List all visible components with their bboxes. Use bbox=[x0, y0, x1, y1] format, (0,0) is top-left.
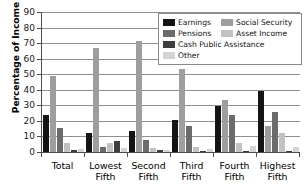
legend-swatch-social-security bbox=[221, 19, 233, 26]
y-tick-mark bbox=[37, 43, 41, 44]
y-tick-label: 40 bbox=[3, 85, 35, 95]
y-tick-label: 80 bbox=[3, 23, 35, 33]
bar bbox=[272, 112, 278, 152]
x-tick-mark bbox=[127, 152, 128, 157]
x-tick-mark bbox=[170, 152, 171, 157]
y-tick-label: 20 bbox=[3, 116, 35, 126]
legend-label: Pensions bbox=[178, 30, 211, 38]
bar bbox=[172, 120, 178, 152]
y-tick-label: 0 bbox=[3, 147, 35, 157]
bar-group bbox=[42, 12, 85, 152]
x-tick-mark bbox=[256, 152, 257, 157]
y-tick-label: 30 bbox=[3, 100, 35, 110]
bar bbox=[129, 131, 135, 152]
legend-swatch-cash-public-assistance bbox=[163, 41, 175, 48]
bar bbox=[236, 143, 242, 152]
bar-chart: Percentage of Income 0102030405060708090… bbox=[0, 0, 307, 196]
legend: EarningsSocial SecurityPensionsAsset Inc… bbox=[158, 13, 302, 65]
y-tick-mark bbox=[37, 12, 41, 13]
x-tick-mark bbox=[213, 152, 214, 157]
bar bbox=[136, 41, 142, 152]
y-tick-mark bbox=[37, 59, 41, 60]
x-tick-mark bbox=[41, 152, 42, 157]
legend-swatch-earnings bbox=[163, 19, 175, 26]
bar bbox=[143, 140, 149, 152]
y-tick-label: 10 bbox=[3, 131, 35, 141]
bar bbox=[114, 141, 120, 152]
x-axis-ticks: TotalLowestFifthSecondFifthThirdFifthFou… bbox=[41, 152, 299, 192]
y-tick-mark bbox=[37, 90, 41, 91]
legend-item: Earnings bbox=[163, 17, 217, 28]
bar bbox=[64, 143, 70, 152]
y-tick-label: 70 bbox=[3, 38, 35, 48]
bar bbox=[279, 133, 285, 152]
x-tick-mark bbox=[84, 152, 85, 157]
legend-item: Other bbox=[163, 50, 298, 61]
y-tick-mark bbox=[37, 121, 41, 122]
bar-group-bars bbox=[85, 12, 128, 152]
legend-swatch-other bbox=[163, 52, 175, 59]
x-tick-mark bbox=[299, 152, 300, 157]
bar bbox=[179, 69, 185, 152]
legend-label: Cash Public Assistance bbox=[178, 41, 265, 49]
bar bbox=[222, 100, 228, 152]
y-tick-label: 50 bbox=[3, 69, 35, 79]
legend-label: Earnings bbox=[178, 19, 211, 27]
legend-item: Social Security bbox=[221, 17, 298, 28]
y-tick-mark bbox=[37, 74, 41, 75]
bar bbox=[186, 126, 192, 152]
y-tick-mark bbox=[37, 28, 41, 29]
x-tick-label-line: Highest bbox=[248, 160, 308, 171]
legend-swatch-pensions bbox=[163, 30, 175, 37]
bar-group-bars bbox=[42, 12, 85, 152]
bar bbox=[229, 115, 235, 152]
bar bbox=[57, 128, 63, 152]
legend-label: Asset Income bbox=[236, 30, 287, 38]
legend-swatch-asset-income bbox=[221, 30, 233, 37]
y-tick-label: 60 bbox=[3, 54, 35, 64]
bar bbox=[215, 106, 221, 152]
legend-label: Other bbox=[178, 52, 200, 60]
y-tick-mark bbox=[37, 105, 41, 106]
bar bbox=[43, 115, 49, 152]
bar-group bbox=[85, 12, 128, 152]
bar bbox=[50, 76, 56, 152]
bar bbox=[258, 91, 264, 152]
legend-item: Cash Public Assistance bbox=[163, 39, 298, 50]
x-tick-label-line: Fifth bbox=[248, 171, 308, 182]
y-tick-mark bbox=[37, 136, 41, 137]
bar bbox=[265, 126, 271, 152]
bar bbox=[93, 48, 99, 152]
legend-item: Pensions bbox=[163, 28, 217, 39]
bar bbox=[86, 133, 92, 152]
bar bbox=[107, 143, 113, 152]
y-tick-label: 90 bbox=[3, 7, 35, 17]
legend-label: Social Security bbox=[236, 19, 292, 27]
legend-item: Asset Income bbox=[221, 28, 298, 39]
x-axis-label-highest-fifth: HighestFifth bbox=[248, 160, 308, 182]
